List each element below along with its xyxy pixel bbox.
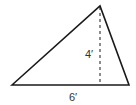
triangle	[12, 6, 129, 85]
height-label: 4′	[85, 48, 93, 60]
base-label: 6′	[69, 91, 77, 103]
triangle-diagram: 4′ 6′	[0, 0, 136, 105]
